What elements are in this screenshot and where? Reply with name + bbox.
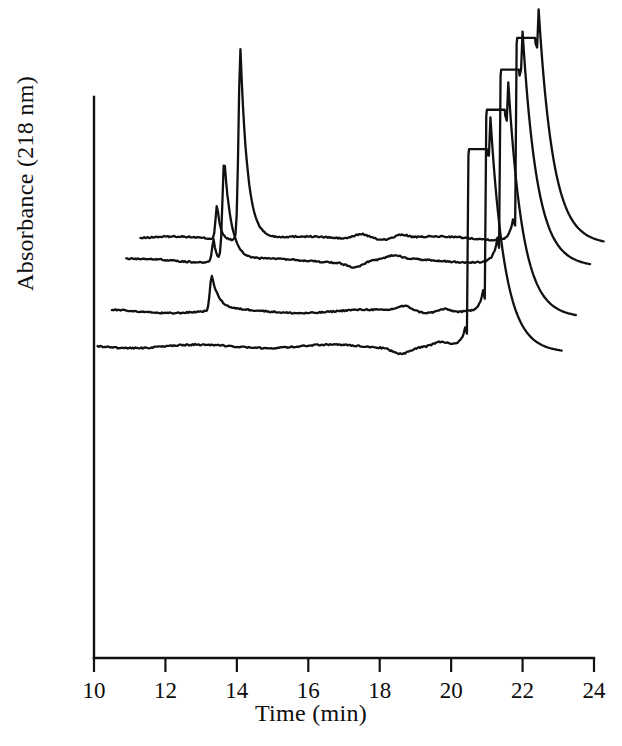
y-axis-title: Absorbance (218 nm) (12, 0, 39, 414)
axis-group (94, 97, 594, 672)
trace-group (98, 9, 604, 354)
chromatogram-trace (112, 82, 576, 315)
chromatogram-figure: 1012141618202224 Absorbance (218 nm) Tim… (0, 0, 622, 746)
plot-canvas: 1012141618202224 (0, 0, 622, 746)
chromatogram-trace (126, 32, 590, 268)
x-axis-title: Time (min) (0, 700, 622, 727)
chromatogram-trace (140, 9, 603, 241)
